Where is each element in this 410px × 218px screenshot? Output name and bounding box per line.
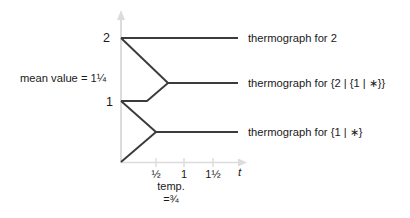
temp-annotation-line2: =¾ bbox=[146, 193, 196, 206]
thermograph-figure: 2 1 mean value = 1¼ ½ 1 1½ t temp. =¾ th… bbox=[0, 0, 410, 218]
x-tick-label-one-half: 1½ bbox=[204, 168, 222, 180]
temp-annotation-line1: temp. bbox=[146, 180, 196, 193]
x-tick-label-half: ½ bbox=[150, 168, 162, 180]
curve-thermograph-2 bbox=[121, 38, 238, 83]
curve-thermograph-1-bar-star bbox=[121, 101, 238, 162]
y-tick-label-2: 2 bbox=[103, 32, 110, 44]
curve-label-thermograph-2: thermograph for 2 bbox=[248, 32, 337, 44]
x-axis-name: t bbox=[238, 166, 241, 178]
x-tick-label-one: 1 bbox=[179, 168, 189, 180]
y-axis bbox=[117, 10, 125, 163]
y-tick-label-1: 1 bbox=[106, 96, 113, 108]
curve-label-thermograph-2-bar-1-bar-star: thermograph for {2 | {1 | ∗}} bbox=[248, 77, 385, 89]
curve-thermograph-2-bar-1-bar-star bbox=[121, 83, 238, 101]
mean-value-annotation: mean value = 1¼ bbox=[20, 72, 106, 84]
thermograph-plot bbox=[0, 0, 410, 218]
curve-label-thermograph-1-bar-star: thermograph for {1 | ∗} bbox=[248, 126, 363, 138]
